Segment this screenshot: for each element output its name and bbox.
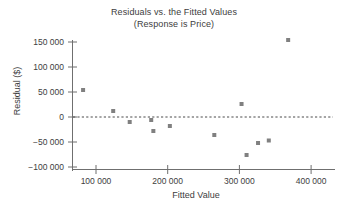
x-tick-label: 200 000 [152,176,183,186]
residual-plot-figure: Residuals vs. the Fitted Values (Respons… [0,0,348,211]
scatter-point [256,141,260,145]
plot-canvas: 150 000100 00050 0000−50 000−100 000 100… [0,0,348,211]
x-axis-group: 100 000200 000300 000400 000 [73,165,336,186]
x-tick-labels: 100 000200 000300 000400 000 [81,176,327,186]
y-tick-label: 0 [59,112,64,122]
x-tick-label: 400 000 [296,176,327,186]
scatter-point [286,38,290,42]
scatter-point [149,118,153,122]
scatter-point [128,120,132,124]
scatter-point [240,102,244,106]
y-tick-label: −50 000 [33,137,64,147]
y-tick-label: 100 000 [33,62,64,72]
y-tick-label: −100 000 [28,162,64,172]
scatter-point [267,139,271,143]
scatter-point [212,133,216,137]
scatter-point [81,88,85,92]
scatter-point [168,124,172,128]
scatter-point [111,109,115,113]
y-tick-labels: 150 000100 00050 0000−50 000−100 000 [28,37,64,172]
y-axis-group: 150 000100 00050 0000−50 000−100 000 [28,37,77,172]
x-tick-label: 300 000 [224,176,255,186]
scatter-point [245,153,249,157]
y-tick-label: 50 000 [38,87,64,97]
x-tick-label: 100 000 [81,176,112,186]
scatter-points [81,38,290,157]
scatter-point [151,129,155,133]
y-tick-label: 150 000 [33,37,64,47]
